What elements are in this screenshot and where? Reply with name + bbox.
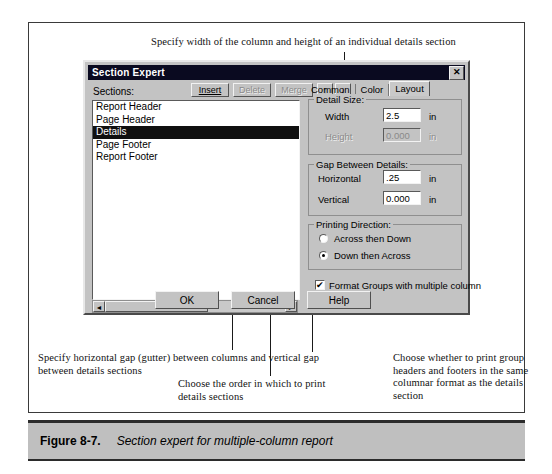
close-icon[interactable]: ✕ — [449, 66, 464, 80]
horizontal-label: Horizontal — [318, 173, 361, 184]
height-unit: in — [429, 131, 436, 142]
dialog-title: Section Expert — [88, 67, 165, 78]
list-item-selected[interactable]: Details — [93, 126, 299, 139]
annotation-print-order: Choose the order in which to print detai… — [178, 378, 343, 403]
vertical-label: Vertical — [318, 194, 349, 205]
radio-down-then-across-label[interactable]: Down then Across — [334, 250, 411, 261]
width-input[interactable]: 2.5 — [383, 108, 421, 122]
gap-between-details-group: Gap Between Details: Horizontal .25 in V… — [308, 164, 462, 216]
sections-listbox[interactable]: Report Header Page Header Details Page F… — [92, 100, 300, 300]
ok-button[interactable]: OK — [155, 291, 219, 309]
list-item[interactable]: Page Footer — [93, 139, 299, 152]
radio-across-then-down[interactable] — [319, 234, 328, 243]
scroll-left-arrow-icon[interactable]: ◄ — [93, 301, 105, 312]
sections-label: Sections: — [93, 86, 134, 97]
printing-direction-label: Printing Direction: — [314, 219, 393, 230]
gap-group-label: Gap Between Details: — [314, 159, 410, 170]
vertical-input[interactable]: 0.000 — [383, 191, 421, 205]
format-groups-checkbox[interactable]: ✔ — [315, 280, 325, 290]
dialog-titlebar[interactable]: Section Expert ✕ — [88, 65, 465, 80]
width-unit: in — [429, 111, 436, 122]
annotation-bottom-right: Choose whether to print group headers an… — [393, 352, 533, 402]
insert-button[interactable]: Insert — [191, 83, 229, 97]
figure-caption: Figure 8-7. Section expert for multiple-… — [28, 423, 525, 461]
horizontal-unit: in — [429, 173, 436, 184]
list-item[interactable]: Report Header — [93, 101, 299, 114]
figure-caption-text: Section expert for multiple-column repor… — [101, 434, 333, 448]
cancel-button[interactable]: Cancel — [231, 291, 295, 309]
help-button[interactable]: Help — [307, 291, 371, 309]
section-expert-dialog: Section Expert ✕ Sections: Insert Delete… — [83, 60, 470, 315]
figure-number: Figure 8-7. — [28, 434, 101, 448]
horizontal-input[interactable]: .25 — [383, 170, 421, 184]
detail-size-label: Detail Size: — [314, 94, 366, 105]
layout-panel: Common Color Layout Detail Size: Width 2… — [306, 82, 464, 310]
format-groups-label[interactable]: Format Groups with multiple column — [329, 280, 481, 291]
vertical-unit: in — [429, 194, 436, 205]
delete-button[interactable]: Delete — [233, 83, 271, 97]
detail-size-group: Detail Size: Width 2.5 in Height 0.000 i… — [308, 99, 462, 155]
annotation-bottom-left: Specify horizontal gap (gutter) between … — [38, 352, 338, 377]
radio-across-then-down-label[interactable]: Across then Down — [334, 233, 411, 244]
insert-label: Insert — [199, 85, 222, 95]
radio-down-then-across[interactable] — [319, 251, 328, 260]
height-input: 0.000 — [383, 128, 421, 142]
height-label: Height — [325, 131, 352, 142]
annotation-top: Specify width of the column and height o… — [151, 36, 541, 49]
width-label: Width — [325, 111, 349, 122]
list-item[interactable]: Page Header — [93, 114, 299, 127]
radio-selected-dot — [322, 254, 325, 257]
list-item[interactable]: Report Footer — [93, 151, 299, 164]
tab-layout[interactable]: Layout — [389, 81, 430, 96]
printing-direction-group: Printing Direction: Across then Down Dow… — [308, 224, 462, 270]
